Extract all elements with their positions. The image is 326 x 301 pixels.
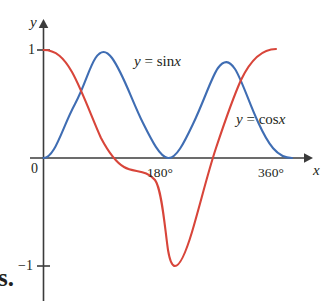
cosine-label-variable: x [279,111,286,127]
x-axis-label: x [313,163,320,178]
sine-label-variable: x [174,53,181,69]
x-tick-label-360: 360° [258,166,284,180]
origin-label: 0 [31,162,38,176]
y-axis [39,19,49,301]
x-axis-arrowhead [304,153,313,163]
cosine-curve-annotation: y = cosx [236,112,285,127]
cosine-label-y: y [236,111,243,127]
cosine-label-function: cos [259,111,279,127]
sine-curve-annotation: y = sinx [134,54,181,69]
sine-label-equals: = [144,53,152,69]
y-tick-label-negative-one: −1 [18,259,33,273]
y-axis-label: y [30,15,37,30]
sine-label-function: sin [157,53,175,69]
y-tick-label-one: 1 [28,43,35,57]
x-tick-label-180: 180° [147,166,173,180]
graph-canvas [0,0,326,301]
margin-note: s. [0,265,14,290]
sine-label-y: y [134,53,141,69]
cosine-label-equals: = [246,111,254,127]
y-axis-arrowhead [39,19,49,28]
trig-graph-figure: y x 0 1 −1 180° 360° y = sinx y = cosx s… [0,0,326,301]
